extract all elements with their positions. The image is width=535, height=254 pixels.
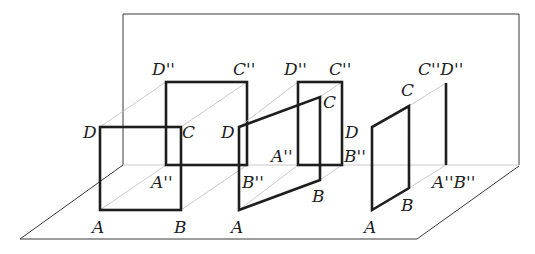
projector-C (181, 82, 247, 127)
diagram-canvas: A B C D A'' B'' C'' D'' A B C D A'' B'' … (0, 0, 535, 254)
label-CD2-3: C''D'' (418, 59, 463, 79)
label-D-2: D (220, 122, 235, 142)
label-B2-2: B'' (343, 146, 366, 166)
projector-B (320, 165, 342, 180)
label-B-2: B (311, 186, 325, 206)
label-A-1: A (90, 217, 104, 237)
label-B-3: B (400, 195, 414, 215)
projector-C (409, 83, 446, 106)
label-A-3: A (362, 217, 376, 237)
label-B2-1: B'' (241, 172, 264, 192)
label-A-2: A (229, 217, 243, 237)
label-B-1: B (173, 217, 187, 237)
label-D2-2: D'' (283, 59, 307, 79)
projector-B (181, 165, 247, 210)
projector-D (100, 82, 166, 127)
case-1-group (100, 82, 247, 210)
label-C-3: C (401, 80, 414, 100)
label-A2-1: A'' (149, 172, 173, 192)
label-D-2b: D (344, 122, 359, 142)
projection-diagram: A B C D A'' B'' C'' D'' A B C D A'' B'' … (0, 0, 535, 254)
projected-square-1 (166, 82, 247, 165)
label-C2-2: C'' (329, 59, 351, 79)
label-A2-2: A'' (269, 146, 293, 166)
label-C2-1: C'' (233, 59, 255, 79)
label-D2-1: D'' (151, 59, 175, 79)
label-AB2-3: A''B'' (430, 172, 475, 192)
label-C-1: C (182, 122, 195, 142)
square-1 (100, 127, 181, 210)
label-D-1: D (82, 122, 97, 142)
label-C-2: C (323, 92, 336, 112)
